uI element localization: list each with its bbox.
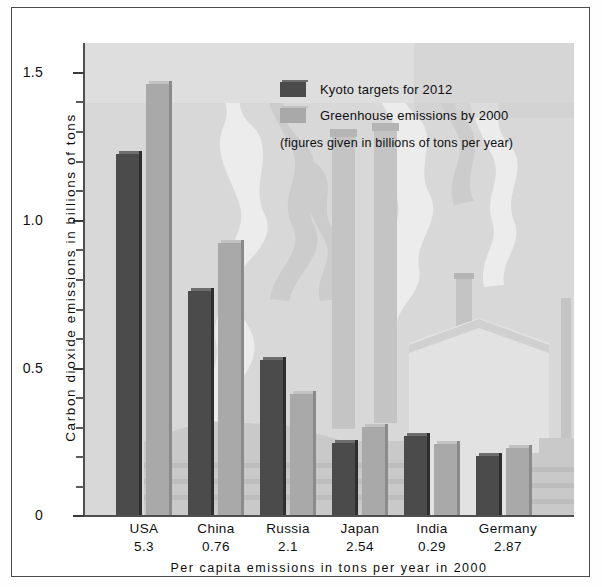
bar-germany-emissions <box>506 448 529 515</box>
bar-face <box>506 448 529 515</box>
y-tick-label-1_0: 1.0 <box>3 212 43 228</box>
swatch-top <box>282 106 308 108</box>
bar-side <box>499 453 502 515</box>
bar-japan-emissions <box>362 427 385 515</box>
bar-india-kyoto <box>404 436 427 515</box>
bar-china-emissions <box>218 243 241 515</box>
bar-japan-kyoto <box>332 443 355 515</box>
bar-side <box>427 433 430 515</box>
legend-swatch-light-icon <box>280 108 306 123</box>
legend-label-emissions: Greenhouse emissions by 2000 <box>320 108 508 123</box>
legend-item-kyoto: Kyoto targets for 2012 <box>280 76 513 102</box>
swatch-face <box>280 108 306 123</box>
swatch-face <box>280 82 306 97</box>
bar-side <box>529 445 532 515</box>
bar-face <box>116 154 139 515</box>
bar-face <box>404 436 427 515</box>
bar-face <box>260 360 283 515</box>
bar-india-emissions <box>434 444 457 515</box>
bar-face <box>146 84 169 515</box>
bar-face <box>434 444 457 515</box>
bar-side <box>385 424 388 515</box>
bar-china-kyoto <box>188 291 211 515</box>
bar-side <box>211 288 214 515</box>
bar-germany-kyoto <box>476 456 499 515</box>
bar-face <box>218 243 241 515</box>
x-axis-line <box>83 515 574 517</box>
bar-face <box>362 427 385 515</box>
bar-russia-emissions <box>290 394 313 515</box>
y-axis-title: Carbon dioxide emissions in billions of … <box>63 68 78 488</box>
bar-usa-emissions <box>146 84 169 515</box>
chart-page: 1.5 1.0 0.5 0 Carbon dioxide emissions i… <box>0 0 602 587</box>
chart-frame: 1.5 1.0 0.5 0 Carbon dioxide emissions i… <box>11 7 590 577</box>
bar-usa-kyoto <box>116 154 139 515</box>
swatch-top <box>282 80 308 82</box>
y-tick-label-1_5: 1.5 <box>3 64 43 80</box>
bar-side <box>139 151 142 515</box>
legend-note: (figures given in billions of tons per y… <box>280 136 513 150</box>
chart-legend: Kyoto targets for 2012 Greenhouse emissi… <box>280 76 513 150</box>
legend-swatch-dark-icon <box>280 82 306 97</box>
bar-side <box>169 81 172 515</box>
x-label-name: Germany <box>462 521 554 536</box>
bar-face <box>290 394 313 515</box>
bar-side <box>313 391 316 515</box>
bar-side <box>355 440 358 515</box>
bar-side <box>241 240 244 515</box>
x-label-value: 2.87 <box>462 539 554 554</box>
legend-item-emissions: Greenhouse emissions by 2000 <box>280 102 513 128</box>
x-axis-title: Per capita emissions in tons per year in… <box>84 561 574 575</box>
bar-side <box>457 441 460 515</box>
y-tick-major-0 <box>73 515 84 517</box>
bar-face <box>476 456 499 515</box>
y-tick-label-0: 0 <box>3 507 43 523</box>
bar-face <box>188 291 211 515</box>
bar-face <box>332 443 355 515</box>
bar-side <box>283 357 286 515</box>
bar-russia-kyoto <box>260 360 283 515</box>
x-label-group-germany: Germany 2.87 <box>462 521 554 554</box>
legend-label-kyoto: Kyoto targets for 2012 <box>320 82 452 97</box>
y-tick-label-0_5: 0.5 <box>3 360 43 376</box>
